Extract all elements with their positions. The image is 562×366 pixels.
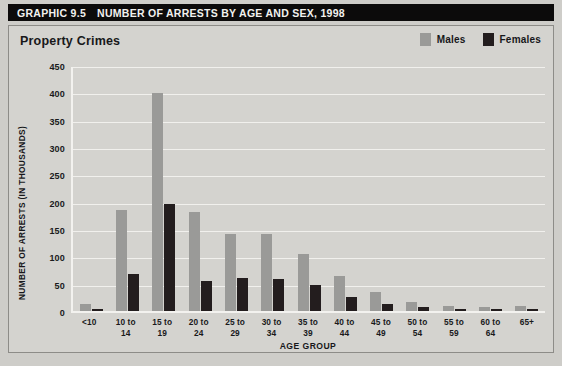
bar-group [146, 67, 182, 311]
y-axis-label-text: NUMBER OF ARRESTS (IN THOUSANDS) [17, 126, 27, 300]
bar-group [291, 67, 327, 311]
bar-females [455, 309, 466, 311]
legend-label-females: Females [500, 34, 541, 45]
bar-group [364, 67, 400, 311]
bar-males [225, 234, 236, 311]
bar-males [80, 304, 91, 311]
bar-group [327, 67, 363, 311]
x-axis-tick: 60 to64 [472, 317, 508, 343]
bar-males [370, 292, 381, 311]
chart-panel: Property Crimes Males Females NUMBER OF … [8, 25, 554, 353]
x-axis-tick: 20 to24 [180, 317, 216, 343]
bar-males [515, 306, 526, 311]
bar-females [128, 274, 139, 311]
legend-swatch-males [420, 33, 431, 46]
bar-males [479, 307, 490, 311]
y-axis-tick: 350 [49, 117, 65, 127]
chart-axes [71, 67, 545, 313]
x-axis-tick: 30 to34 [253, 317, 289, 343]
chart-subhead: Property Crimes Males Females [9, 26, 553, 55]
x-axis-tick: 45 to49 [363, 317, 399, 343]
x-axis-tick: 25 to29 [217, 317, 253, 343]
y-axis-tick: 450 [49, 62, 65, 72]
x-axis-tick: 15 to19 [144, 317, 180, 343]
y-axis-label: NUMBER OF ARRESTS (IN THOUSANDS) [15, 113, 29, 313]
legend-item-males: Males [420, 33, 466, 46]
bar-males [443, 306, 454, 311]
bar-females [92, 309, 103, 311]
bar-group [400, 67, 436, 311]
bar-groups [73, 67, 545, 311]
bar-males [261, 234, 272, 311]
x-axis-tick: 40 to44 [326, 317, 362, 343]
y-axis-tick: 300 [49, 144, 65, 154]
x-axis-tick: 35 to39 [290, 317, 326, 343]
chart-subtitle: Property Crimes [20, 34, 120, 48]
bar-males [152, 93, 163, 311]
bar-females [418, 307, 429, 311]
graphic-title-bar: GRAPHIC 9.5 NUMBER OF ARRESTS BY AGE AND… [8, 4, 554, 21]
bar-males [334, 276, 345, 311]
bar-group [255, 67, 291, 311]
bar-females [164, 204, 175, 311]
x-axis-label: AGE GROUP [71, 341, 545, 351]
legend-label-males: Males [437, 34, 466, 45]
x-axis-tick: 10 to14 [107, 317, 143, 343]
bar-group [436, 67, 472, 311]
legend-item-females: Females [483, 33, 541, 46]
bar-females [346, 297, 357, 311]
y-axis-tick: 100 [49, 253, 65, 263]
bar-females [527, 309, 538, 311]
graphic-figure: GRAPHIC 9.5 NUMBER OF ARRESTS BY AGE AND… [0, 0, 562, 366]
y-axis-ticks: 450400350300250200150100500 [31, 55, 69, 353]
bar-females [237, 278, 248, 311]
bar-males [116, 210, 127, 311]
bar-group [109, 67, 145, 311]
bar-group [509, 67, 545, 311]
bar-females [201, 281, 212, 311]
y-axis-tick: 250 [49, 171, 65, 181]
y-axis-tick: 50 [55, 281, 65, 291]
graphic-number: GRAPHIC 9.5 [17, 7, 86, 19]
bar-group [182, 67, 218, 311]
x-axis-tick: 55 to59 [436, 317, 472, 343]
graphic-title: NUMBER OF ARRESTS BY AGE AND SEX, 1998 [97, 7, 345, 19]
bar-females [491, 309, 502, 311]
x-axis-ticks: <1010 to1415 to1920 to2425 to2930 to3435… [71, 317, 545, 343]
x-axis-tick: 50 to54 [399, 317, 435, 343]
bar-group [218, 67, 254, 311]
plot-area: NUMBER OF ARRESTS (IN THOUSANDS) 4504003… [9, 55, 555, 353]
bar-females [310, 285, 321, 311]
y-axis-tick: 400 [49, 89, 65, 99]
x-axis-tick: 65+ [509, 317, 545, 343]
bar-males [189, 212, 200, 311]
legend-swatch-females [483, 33, 494, 46]
y-axis-tick: 0 [60, 308, 65, 318]
bar-males [298, 254, 309, 311]
bar-group [73, 67, 109, 311]
bar-females [273, 279, 284, 311]
x-axis-tick: <10 [71, 317, 107, 343]
bar-group [472, 67, 508, 311]
bar-males [406, 302, 417, 311]
chart-legend: Males Females [420, 33, 541, 46]
y-axis-tick: 200 [49, 199, 65, 209]
y-axis-tick: 150 [49, 226, 65, 236]
bar-females [382, 304, 393, 311]
